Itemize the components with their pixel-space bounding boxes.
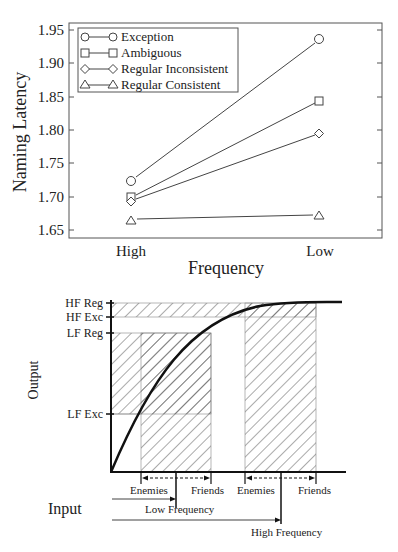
legend-label: Exception bbox=[121, 29, 174, 44]
level-label-lf-reg: LF Reg bbox=[67, 326, 103, 340]
hf-region bbox=[245, 303, 316, 472]
series-line-ambiguous bbox=[136, 103, 315, 195]
legend-circle-icon bbox=[81, 33, 89, 41]
marker-diamond bbox=[315, 129, 324, 138]
level-label-hf-exc: HF Exc bbox=[66, 310, 103, 324]
input-axis-label: Input bbox=[48, 500, 82, 518]
y-tick-label: 1.90 bbox=[38, 55, 64, 71]
marker-circle bbox=[127, 177, 136, 186]
y-tick-label: 1.65 bbox=[38, 222, 64, 238]
legend-label: Ambiguous bbox=[121, 45, 182, 60]
y-tick-label: 1.75 bbox=[38, 155, 64, 171]
y-tick-label: 1.85 bbox=[38, 89, 64, 105]
y-tick-label: 1.80 bbox=[38, 122, 64, 138]
lf-enemies-label: Enemies bbox=[130, 484, 168, 496]
series-line-regular-inconsistent bbox=[136, 135, 315, 199]
legend: Exception Ambiguous Regular Inconsistent… bbox=[78, 28, 238, 92]
low-frequency-label: Low Frequency bbox=[145, 503, 215, 515]
y-axis-label: Naming Latency bbox=[10, 72, 30, 192]
line-chart: 1.95 1.90 1.85 1.80 1.75 1.70 1.65 Namin… bbox=[10, 22, 382, 278]
y-tick-label: 1.95 bbox=[38, 22, 64, 38]
y-tick-label: 1.70 bbox=[38, 189, 64, 205]
legend-circle-icon bbox=[109, 33, 117, 41]
lf-friends-label: Friends bbox=[191, 484, 224, 496]
legend-square-icon bbox=[81, 49, 89, 57]
hf-enemies-label: Enemies bbox=[237, 484, 275, 496]
marker-triangle bbox=[314, 211, 324, 219]
series-line-regular-consistent bbox=[137, 215, 313, 219]
legend-label: Regular Consistent bbox=[121, 77, 221, 92]
high-frequency-label: High Frequency bbox=[251, 526, 323, 538]
output-axis-label: Output bbox=[26, 360, 41, 399]
legend-square-icon bbox=[109, 49, 117, 57]
x-tick-label-low: Low bbox=[306, 243, 334, 259]
hf-friends-label: Friends bbox=[298, 484, 331, 496]
marker-triangle bbox=[126, 216, 136, 224]
marker-square bbox=[315, 97, 323, 105]
legend-label: Regular Inconsistent bbox=[121, 61, 229, 76]
x-tick-label-high: High bbox=[116, 243, 147, 259]
frequency-consistency-diagram: HF Reg HF Exc LF Reg LF Exc Output Enemi… bbox=[26, 296, 346, 538]
marker-circle bbox=[315, 35, 324, 44]
x-axis-label: Frequency bbox=[188, 258, 264, 278]
level-label-hf-reg: HF Reg bbox=[65, 296, 103, 310]
level-label-lf-exc: LF Exc bbox=[67, 407, 103, 421]
lf-region bbox=[141, 333, 211, 472]
